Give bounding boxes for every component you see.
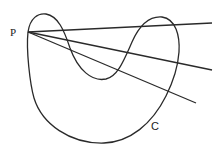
ray-line-1 <box>28 23 212 32</box>
ray-line-2 <box>28 32 212 70</box>
ray-line-3 <box>28 32 196 103</box>
curve-diagram <box>0 0 222 147</box>
curve-c-label: C <box>151 121 159 132</box>
point-p-label: P <box>10 27 16 38</box>
rays-from-p <box>28 23 212 103</box>
